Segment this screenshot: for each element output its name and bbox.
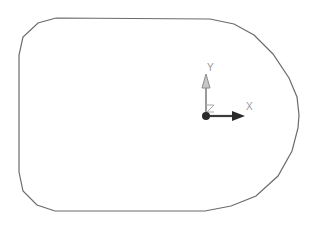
y-axis-label: Y [207,62,214,73]
coordinate-triad: Y X [202,62,253,121]
origin-point-icon[interactable] [202,112,210,120]
sketch-viewport[interactable]: Y X [0,0,312,226]
y-axis-arrow-icon [202,74,210,113]
sketch-outline[interactable] [19,18,299,211]
z-axis-marker-icon [206,105,214,112]
x-axis-label: X [246,101,253,112]
